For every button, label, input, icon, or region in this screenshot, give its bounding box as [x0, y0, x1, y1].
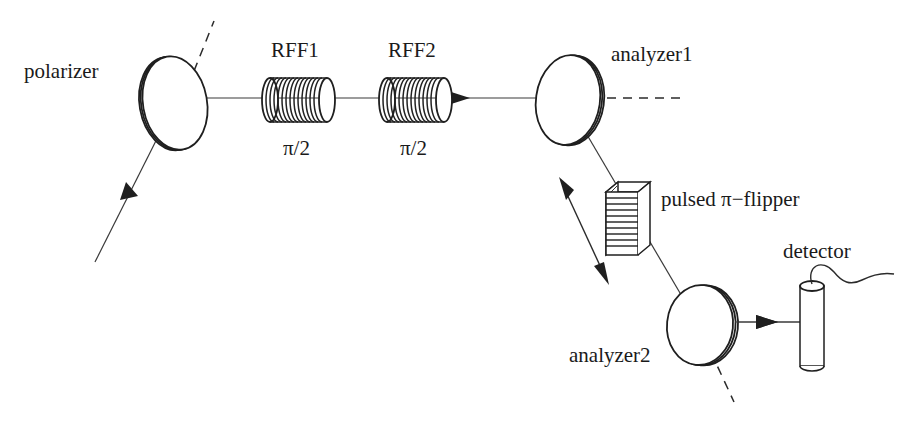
double-arrow-shaft	[566, 192, 602, 270]
figure-root: polarizer RFF1 π/2 RFF2 π/2 analyzer1 pu…	[0, 0, 904, 432]
rff1-end-cap-right	[319, 78, 335, 122]
flipper-double-arrow	[559, 177, 609, 285]
rff2-coil[interactable]	[379, 78, 452, 122]
rff2-end-cap-right	[436, 78, 452, 122]
detector-bottom-cap	[800, 366, 824, 371]
label-analyzer1: analyzer1	[611, 42, 693, 66]
analyzer2-disk[interactable]	[663, 282, 742, 369]
beam-arrowhead-incoming	[120, 182, 138, 200]
label-rff1: RFF1	[271, 38, 319, 62]
double-arrow-head-upper	[559, 177, 574, 200]
label-polarizer: polarizer	[24, 59, 99, 83]
detector-body	[800, 286, 824, 366]
label-pulsed-flipper: pulsed π−flipper	[661, 187, 800, 211]
detector-cylinder[interactable]	[800, 265, 894, 371]
label-analyzer2: analyzer2	[569, 343, 651, 367]
analyzer1-disk[interactable]	[530, 51, 610, 150]
beam-arrowhead-detector-top	[756, 315, 778, 329]
label-rff1-angle: π/2	[283, 136, 310, 160]
label-rff2: RFF2	[388, 38, 436, 62]
flipper-back-edge	[638, 182, 650, 255]
rff1-coil[interactable]	[262, 78, 335, 122]
diagram-canvas: polarizer RFF1 π/2 RFF2 π/2 analyzer1 pu…	[0, 0, 904, 432]
label-detector: detector	[783, 239, 851, 263]
detector-cable	[811, 265, 894, 284]
pulsed-flipper-box[interactable]	[606, 182, 650, 255]
double-arrow-head-lower	[594, 262, 609, 285]
label-rff2-angle: π/2	[400, 136, 427, 160]
polarizer-disk[interactable]	[132, 51, 215, 155]
